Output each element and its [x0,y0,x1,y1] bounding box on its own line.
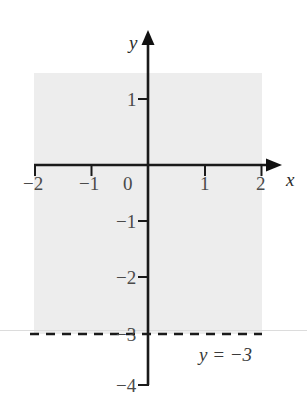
y-tick-label-1: 1 [127,90,137,109]
x-tick-label-zero: 0 [123,174,133,193]
coordinate-plane-figure: y x −2 −1 0 1 2 1 −1 −2 −3 −4 y = −3 [0,0,307,399]
y-axis-label: y [129,33,137,52]
y-tick-label-minus-3: −3 [116,325,136,344]
y-tick-label-minus-1: −1 [116,212,136,231]
x-tick-label-1: 1 [200,174,210,193]
x-tick-label-2: 2 [256,174,266,193]
graph-canvas [0,0,307,399]
y-tick-label-minus-2: −2 [116,268,136,287]
x-tick-label-minus-1: −1 [79,174,99,193]
x-axis-label: x [286,170,294,189]
y-tick-label-minus-4: −4 [116,376,136,395]
x-tick-label-minus-2: −2 [23,174,43,193]
line-equation-label: y = −3 [199,345,252,364]
